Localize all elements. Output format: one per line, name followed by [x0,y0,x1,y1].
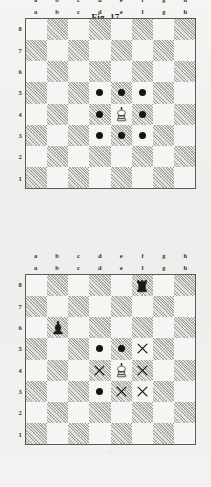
square-d4[interactable] [89,104,110,125]
square-f7[interactable] [132,296,153,317]
square-f2[interactable] [132,402,153,423]
square-g6[interactable] [153,61,174,82]
square-b2[interactable] [47,402,68,423]
square-a6[interactable] [26,61,47,82]
square-f6[interactable] [132,317,153,338]
square-d4[interactable] [89,360,110,381]
square-g8[interactable] [153,275,174,296]
square-g1[interactable] [153,167,174,188]
square-a1[interactable] [26,167,47,188]
square-a3[interactable] [26,125,47,146]
square-g3[interactable] [153,125,174,146]
chessboard-2[interactable] [25,274,196,445]
square-h7[interactable] [174,296,195,317]
square-a8[interactable] [26,19,47,40]
square-b1[interactable] [47,423,68,444]
square-c8[interactable] [68,19,89,40]
square-h8[interactable] [174,19,195,40]
square-g6[interactable] [153,317,174,338]
square-a8[interactable] [26,275,47,296]
square-f1[interactable] [132,423,153,444]
square-h3[interactable] [174,381,195,402]
square-d2[interactable] [89,146,110,167]
square-a6[interactable] [26,317,47,338]
black-rook-icon[interactable] [132,275,153,296]
square-g7[interactable] [153,296,174,317]
square-d1[interactable] [89,423,110,444]
square-b8[interactable] [47,19,68,40]
square-d7[interactable] [89,296,110,317]
square-a1[interactable] [26,423,47,444]
square-c2[interactable] [68,402,89,423]
square-c6[interactable] [68,61,89,82]
square-g4[interactable] [153,104,174,125]
square-g8[interactable] [153,19,174,40]
square-g5[interactable] [153,338,174,359]
square-e7[interactable] [111,296,132,317]
square-b8[interactable] [47,275,68,296]
square-d8[interactable] [89,19,110,40]
square-f1[interactable] [132,167,153,188]
square-b5[interactable] [47,82,68,103]
black-bishop-icon[interactable] [47,317,68,338]
square-e1[interactable] [111,423,132,444]
chessboard-1[interactable] [25,18,196,189]
square-b4[interactable] [47,104,68,125]
square-b4[interactable] [47,360,68,381]
square-e8[interactable] [111,275,132,296]
square-c3[interactable] [68,381,89,402]
square-f4[interactable] [132,104,153,125]
square-f2[interactable] [132,146,153,167]
square-d6[interactable] [89,317,110,338]
square-c5[interactable] [68,338,89,359]
square-g1[interactable] [153,423,174,444]
square-e1[interactable] [111,167,132,188]
square-e4[interactable] [111,360,132,381]
square-b6[interactable] [47,61,68,82]
square-h1[interactable] [174,423,195,444]
square-a5[interactable] [26,82,47,103]
square-d5[interactable] [89,338,110,359]
square-e7[interactable] [111,40,132,61]
square-b3[interactable] [47,381,68,402]
square-h3[interactable] [174,125,195,146]
square-h5[interactable] [174,338,195,359]
square-a7[interactable] [26,40,47,61]
white-king-icon[interactable] [111,104,132,125]
square-h2[interactable] [174,402,195,423]
square-f6[interactable] [132,61,153,82]
square-f8[interactable] [132,19,153,40]
square-g4[interactable] [153,360,174,381]
square-c5[interactable] [68,82,89,103]
square-d5[interactable] [89,82,110,103]
square-h2[interactable] [174,146,195,167]
square-h6[interactable] [174,317,195,338]
square-c4[interactable] [68,360,89,381]
square-h4[interactable] [174,104,195,125]
square-d3[interactable] [89,125,110,146]
square-b2[interactable] [47,146,68,167]
square-b7[interactable] [47,40,68,61]
square-c7[interactable] [68,296,89,317]
square-h8[interactable] [174,275,195,296]
square-e5[interactable] [111,82,132,103]
square-d8[interactable] [89,275,110,296]
square-g7[interactable] [153,40,174,61]
white-king-icon[interactable] [111,360,132,381]
square-e2[interactable] [111,146,132,167]
square-a4[interactable] [26,104,47,125]
square-c3[interactable] [68,125,89,146]
square-g3[interactable] [153,381,174,402]
square-h7[interactable] [174,40,195,61]
square-b6[interactable] [47,317,68,338]
square-g2[interactable] [153,146,174,167]
square-f3[interactable] [132,125,153,146]
square-c7[interactable] [68,40,89,61]
square-f8[interactable] [132,275,153,296]
square-d7[interactable] [89,40,110,61]
square-e3[interactable] [111,381,132,402]
square-c1[interactable] [68,167,89,188]
square-a7[interactable] [26,296,47,317]
square-h1[interactable] [174,167,195,188]
square-f5[interactable] [132,338,153,359]
